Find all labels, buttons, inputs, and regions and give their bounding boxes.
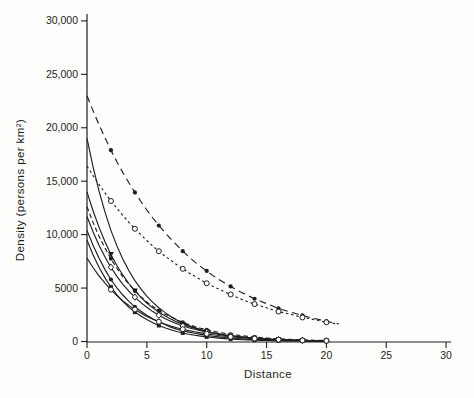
y-tick-label: 15,000 xyxy=(46,175,78,187)
open-circle-marker xyxy=(324,320,329,325)
filled-circle-marker xyxy=(229,284,233,288)
x-tick-label: 20 xyxy=(321,349,333,361)
open-circle-marker xyxy=(228,292,233,297)
open-circle-marker xyxy=(108,198,113,203)
x-tick-label: 15 xyxy=(261,349,273,361)
open-circle-marker xyxy=(180,327,185,332)
filled-circle-marker xyxy=(109,148,113,152)
x-tick-label: 5 xyxy=(144,349,150,361)
open-circle-marker xyxy=(252,336,257,341)
series-curve-2 xyxy=(87,166,338,325)
series-curve-8 xyxy=(87,240,328,343)
density-distance-chart: 0500010,00015,00020,00025,00030,00005101… xyxy=(0,0,474,398)
series-curve-6 xyxy=(87,217,329,344)
y-tick-label: 0 xyxy=(72,335,78,347)
filled-circle-marker xyxy=(133,289,137,293)
y-tick-label: 25,000 xyxy=(46,68,78,80)
open-circle-marker xyxy=(300,315,305,320)
series-line-curve-2 xyxy=(87,166,338,324)
x-tick-label: 0 xyxy=(84,349,90,361)
series-line-curve-4 xyxy=(87,192,326,341)
open-circle-marker xyxy=(252,302,257,307)
open-circle-marker xyxy=(204,281,209,286)
filled-circle-marker xyxy=(133,190,137,194)
open-circle-marker xyxy=(228,334,233,339)
y-axis-title: Density (persons per km²) xyxy=(14,119,26,261)
series-curve-4 xyxy=(87,192,329,344)
open-circle-marker xyxy=(156,249,161,254)
series-curve-7 xyxy=(87,230,329,343)
filled-circle-marker xyxy=(157,223,161,227)
open-circle-marker xyxy=(156,319,161,324)
series-curve-3 xyxy=(87,138,326,341)
series-line-curve-6 xyxy=(87,217,326,341)
x-tick-label: 10 xyxy=(201,349,213,361)
open-circle-marker xyxy=(276,337,281,342)
series-line-curve-3 xyxy=(87,138,326,341)
x-tick-label: 25 xyxy=(380,349,392,361)
open-circle-marker xyxy=(204,331,209,336)
open-circle-marker xyxy=(132,307,137,312)
figure-canvas: 0500010,00015,00020,00025,00030,00005101… xyxy=(0,0,474,398)
series-line-curve-1 xyxy=(87,96,338,324)
filled-circle-marker xyxy=(109,257,113,261)
y-tick-label: 30,000 xyxy=(46,14,78,26)
x-axis-title: Distance xyxy=(87,368,449,380)
filled-circle-marker xyxy=(181,249,185,253)
y-tick-label: 10,000 xyxy=(46,228,78,240)
x-tick-label: 30 xyxy=(440,349,452,361)
series-curve-1 xyxy=(87,96,338,324)
open-circle-marker xyxy=(108,287,113,292)
open-circle-marker xyxy=(300,338,305,343)
y-tick-label: 20,000 xyxy=(46,121,78,133)
filled-circle-marker xyxy=(205,269,209,273)
y-tick-label: 5000 xyxy=(55,282,79,294)
series-line-curve-8 xyxy=(87,240,326,341)
open-circle-marker xyxy=(324,338,329,343)
open-circle-marker xyxy=(180,266,185,271)
filled-circle-marker xyxy=(252,297,256,301)
series-line-curve-5 xyxy=(87,207,326,341)
filled-circle-marker xyxy=(109,277,113,281)
open-circle-marker xyxy=(132,226,137,231)
open-circle-marker xyxy=(276,309,281,314)
